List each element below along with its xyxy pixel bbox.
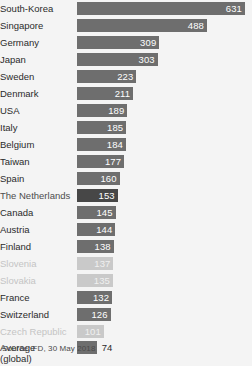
bar-track: 309 [77, 36, 252, 49]
bar: 132 [77, 291, 112, 304]
bar: 189 [77, 104, 127, 117]
bar-track: 223 [77, 70, 252, 83]
category-label: South-Korea [0, 3, 77, 14]
bar: 177 [77, 155, 124, 168]
bar-row: Taiwan177 [0, 153, 252, 170]
bar-track: 137 [77, 257, 252, 270]
bar-value: 631 [226, 2, 242, 15]
category-label: Denmark [0, 88, 77, 99]
category-label: Finland [0, 241, 77, 252]
bar-row: Canada145 [0, 204, 252, 221]
bar-value: 101 [85, 325, 101, 338]
bar-row: USA189 [0, 102, 252, 119]
category-label: The Netherlands [0, 190, 77, 201]
bar-value: 223 [117, 70, 133, 83]
category-label: Switzerland [0, 309, 77, 320]
category-label: Slovenia [0, 258, 77, 269]
category-label: USA [0, 105, 77, 116]
bar-value: 132 [93, 291, 109, 304]
bar-value: 153 [99, 189, 115, 202]
bar-row: Singapore488 [0, 17, 252, 34]
bar-row: Czech Republic101 [0, 323, 252, 340]
bar-row: Slovenia137 [0, 255, 252, 272]
bar-value: 145 [96, 206, 112, 219]
bar-track: 211 [77, 87, 252, 100]
bar-track: 144 [77, 223, 252, 236]
bar-track: 145 [77, 206, 252, 219]
bar-value: 126 [91, 308, 107, 321]
bar-track: 126 [77, 308, 252, 321]
bar-track: 631 [77, 2, 252, 15]
bar-track: 160 [77, 172, 252, 185]
bar: 145 [77, 206, 116, 219]
bar-track: 488 [77, 19, 252, 32]
bar-row: Sweden223 [0, 68, 252, 85]
bar-value: 160 [100, 172, 116, 185]
bar: 135 [77, 274, 113, 287]
bar-value: 144 [96, 223, 112, 236]
category-label: Taiwan [0, 156, 77, 167]
bar-track: 189 [77, 104, 252, 117]
bar-row: South-Korea631 [0, 0, 252, 17]
bar-track: 74 [77, 341, 252, 354]
bar: 101 [77, 325, 104, 338]
bar: 126 [77, 308, 111, 321]
bar-row: Denmark211 [0, 85, 252, 102]
bar-track: 153 [77, 189, 252, 202]
bar-value: 488 [188, 19, 204, 32]
bar-track: 185 [77, 121, 252, 134]
bar: 160 [77, 172, 120, 185]
bar-row: Belgium184 [0, 136, 252, 153]
bar-value: 211 [115, 87, 130, 100]
category-label: Japan [0, 54, 77, 65]
bar-row: The Netherlands153 [0, 187, 252, 204]
bar: 153 [77, 189, 118, 202]
bar-value: 185 [107, 121, 123, 134]
category-label: Italy [0, 122, 77, 133]
bar: 211 [77, 87, 133, 100]
bar-value: 74 [102, 341, 113, 354]
bar-row: Italy185 [0, 119, 252, 136]
bar-value: 135 [94, 274, 110, 287]
bar: 303 [77, 53, 158, 66]
bar-value: 137 [94, 257, 110, 270]
bar: 184 [77, 138, 126, 151]
source-note: Source: FD, 30 May 2018 [2, 344, 95, 353]
bar: 631 [77, 2, 245, 15]
bar-value: 189 [108, 104, 124, 117]
bar-value: 309 [140, 36, 156, 49]
bar: 138 [77, 240, 114, 253]
bar-row: Japan303 [0, 51, 252, 68]
bar: 223 [77, 70, 136, 83]
category-label: Germany [0, 37, 77, 48]
bar-track: 303 [77, 53, 252, 66]
bar-value: 177 [105, 155, 121, 168]
category-label: Austria [0, 224, 77, 235]
bar-row: Slovakia135 [0, 272, 252, 289]
bar-value: 303 [139, 53, 155, 66]
bar-row: Austria144 [0, 221, 252, 238]
bar: 137 [77, 257, 113, 270]
bar-row: Germany309 [0, 34, 252, 51]
bar-track: 184 [77, 138, 252, 151]
bar-value: 138 [95, 240, 111, 253]
category-label: Sweden [0, 71, 77, 82]
bar: 185 [77, 121, 126, 134]
bar-row: Spain160 [0, 170, 252, 187]
bar-track: 138 [77, 240, 252, 253]
category-label: Singapore [0, 20, 77, 31]
category-label: Spain [0, 173, 77, 184]
bar-row: Switzerland126 [0, 306, 252, 323]
bar-track: 135 [77, 274, 252, 287]
bar-track: 132 [77, 291, 252, 304]
bar: 309 [77, 36, 159, 49]
bar-track: 101 [77, 325, 252, 338]
bar-row: France132 [0, 289, 252, 306]
bar: 144 [77, 223, 115, 236]
bar-track: 177 [77, 155, 252, 168]
category-label: Canada [0, 207, 77, 218]
bar-row: Finland138 [0, 238, 252, 255]
category-label: Belgium [0, 139, 77, 150]
category-label: Czech Republic [0, 326, 77, 337]
